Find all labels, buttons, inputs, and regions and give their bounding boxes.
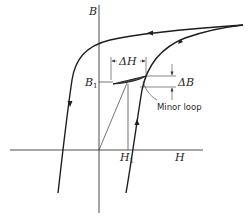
minor-loop-leader-line	[143, 82, 157, 100]
origin-to-minor-loop-line	[99, 83, 127, 150]
delta-h-label: ΔH	[118, 55, 137, 68]
major-loop-descending-branch	[58, 25, 243, 193]
delta-b-top-arrowhead-icon	[171, 72, 174, 76]
b-axis-label: B	[88, 5, 97, 18]
delta-h-arrowhead-right-icon	[142, 60, 146, 63]
arrow-right-up-icon	[135, 119, 140, 125]
delta-b-label: ΔB	[177, 76, 194, 89]
hysteresis-diagram: B H B1 H1 ΔH ΔB Minor loop	[0, 0, 250, 218]
delta-h-arrowhead-left-icon	[112, 60, 116, 63]
minor-loop-label: Minor loop	[157, 102, 202, 112]
h-axis-label: H	[174, 151, 185, 164]
b1-label: B1	[84, 76, 98, 90]
delta-b-bottom-arrowhead-icon	[171, 88, 174, 92]
arrow-top-left-icon	[147, 31, 153, 36]
minor-loop	[113, 76, 146, 84]
